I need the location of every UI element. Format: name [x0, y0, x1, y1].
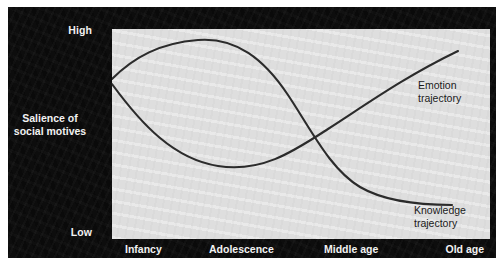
emotion-label-line-1: Emotion	[418, 79, 461, 92]
knowledge-trajectory-label: Knowledge trajectory	[414, 204, 466, 229]
chart-panel: High Low Salience of social motives Emot…	[8, 7, 496, 258]
emotion-trajectory-label: Emotion trajectory	[418, 79, 461, 104]
knowledge-trajectory-curve	[112, 40, 452, 205]
x-axis-tick-label: Middle age	[324, 243, 378, 255]
emotion-label-line-2: trajectory	[418, 92, 461, 105]
knowledge-label-line-1: Knowledge	[414, 204, 466, 217]
y-axis-high-label: High	[68, 24, 92, 36]
y-axis-title: Salience of social motives	[8, 112, 98, 137]
y-axis-low-label: Low	[71, 226, 92, 238]
knowledge-label-line-2: trajectory	[414, 217, 466, 230]
plot-area: Emotion trajectory Knowledge trajectory	[112, 29, 490, 239]
y-axis-title-line-1: Salience of	[8, 112, 98, 125]
figure-root: High Low Salience of social motives Emot…	[0, 0, 504, 273]
x-axis-labels: InfancyAdolescenceMiddle ageOld age	[112, 243, 496, 258]
x-axis-tick-label: Adolescence	[209, 243, 274, 255]
x-axis-tick-label: Old age	[446, 243, 485, 255]
x-axis-tick-label: Infancy	[125, 243, 162, 255]
y-axis-title-line-2: social motives	[8, 125, 98, 138]
emotion-trajectory-curve	[112, 51, 458, 167]
